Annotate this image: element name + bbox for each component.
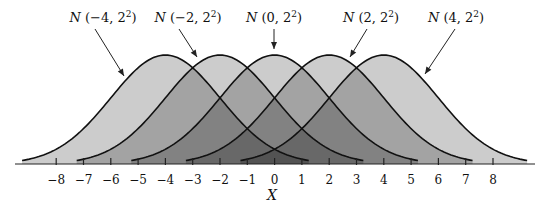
x-tick-label: −2 xyxy=(211,173,229,187)
curve-label-1: N (−2, 22) xyxy=(153,9,221,25)
curve-label-0: N (−4, 22) xyxy=(68,9,136,25)
x-tick-label: 0 xyxy=(271,173,279,187)
curve-label-2: N (0, 22) xyxy=(245,9,302,25)
x-tick-label: −7 xyxy=(75,173,93,187)
x-tick-label: −4 xyxy=(157,173,175,187)
curve-label-3: N (2, 22) xyxy=(342,9,399,25)
x-tick-label: 8 xyxy=(489,173,497,187)
x-tick-label: 3 xyxy=(353,173,361,187)
x-tick-label: −6 xyxy=(102,173,120,187)
x-tick-label: 4 xyxy=(380,173,388,187)
arrowhead-icon xyxy=(118,69,124,77)
arrow-line xyxy=(95,29,124,76)
normal-distributions-chart: −8−7−6−5−4−3−2−1012345678 X N (−4, 22)N … xyxy=(0,0,545,207)
x-tick-label: −5 xyxy=(129,173,147,187)
x-tick-label: −1 xyxy=(238,173,256,187)
x-tick-label: −8 xyxy=(47,173,65,187)
x-axis-title: X xyxy=(266,187,278,203)
arrowhead-icon xyxy=(191,50,197,58)
density-curves xyxy=(22,55,527,164)
curve-label-4: N (4, 22) xyxy=(427,9,484,25)
x-tick-label: 7 xyxy=(462,173,470,187)
x-tick-label: −3 xyxy=(184,173,202,187)
arrowhead-icon xyxy=(271,42,277,49)
x-tick-label: 2 xyxy=(325,173,333,187)
arrow-line xyxy=(425,29,455,74)
x-tick-label: 1 xyxy=(298,173,306,187)
arrowhead-icon xyxy=(425,67,431,75)
x-tick-label: 5 xyxy=(407,173,415,187)
arrowhead-icon xyxy=(350,50,356,58)
curve-labels: N (−4, 22)N (−2, 22)N (0, 22)N (2, 22)N … xyxy=(68,9,484,25)
x-tick-label: 6 xyxy=(435,173,443,187)
